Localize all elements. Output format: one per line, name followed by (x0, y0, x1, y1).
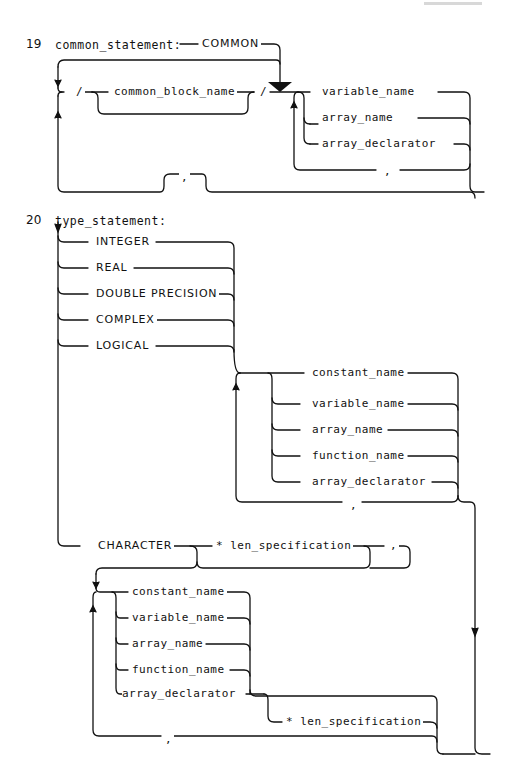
len-comma: , (388, 540, 399, 552)
block-separator-comma: , (179, 172, 190, 184)
char-len-specification: * len_specification (284, 716, 423, 728)
char-separator-comma: , (163, 734, 174, 746)
type-real: REAL (94, 262, 129, 274)
rule-number-19: 19 (26, 37, 41, 51)
char-entity-array-declarator: array_declarator (122, 688, 236, 700)
type-logical: LOGICAL (94, 340, 151, 352)
keyword-character: CHARACTER (96, 540, 174, 552)
syntax-diagram-lines (0, 0, 515, 760)
char-entity-constant-name: constant_name (130, 586, 227, 598)
len-specification: * len_specification (214, 540, 353, 552)
char-entity-array-name: array_name (130, 638, 205, 650)
char-entity-function-name: function_name (130, 664, 227, 676)
entity-array-name: array_name (310, 424, 385, 436)
entity-variable-name: variable_name (310, 398, 407, 410)
entity-separator-comma: , (348, 500, 359, 512)
item-array-name: array_name (320, 112, 395, 124)
entity-function-name: function_name (310, 450, 407, 462)
item-array-declarator: array_declarator (320, 138, 438, 150)
type-integer: INTEGER (94, 236, 152, 248)
char-entity-variable-name: variable_name (130, 612, 227, 624)
keyword-common: COMMON (200, 38, 261, 50)
entity-array-declarator: array_declarator (310, 476, 428, 488)
entity-constant-name: constant_name (310, 367, 407, 379)
common-block-name: common_block_name (112, 86, 237, 98)
type-double-precision: DOUBLE PRECISION (94, 288, 219, 300)
item-separator-comma: , (382, 166, 393, 178)
rule-title-type-statement: type_statement: (55, 214, 166, 228)
slash-close: / (258, 86, 269, 98)
rule-number-20: 20 (26, 213, 41, 227)
slash-open: / (74, 86, 85, 98)
item-variable-name: variable_name (320, 86, 417, 98)
rule-title-common-statement: common_statement: (55, 38, 181, 52)
type-complex: COMPLEX (94, 314, 157, 326)
